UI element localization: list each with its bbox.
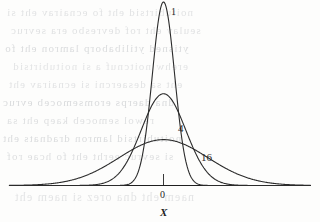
x-axis-title: X <box>160 207 167 218</box>
density-curve-variance-1 <box>9 2 310 185</box>
curve-label-variance-1: 1 <box>171 7 176 17</box>
normal-distribution-figure: noitubirtsid eht fo ecnairav eht si seul… <box>0 0 320 222</box>
density-curve-variance-16 <box>9 140 310 186</box>
curve-label-variance-16: 16 <box>201 152 212 163</box>
x-axis-origin-label: 0 <box>160 190 165 200</box>
curve-label-variance-4: 4 <box>178 123 184 134</box>
density-curves-group <box>9 2 310 185</box>
